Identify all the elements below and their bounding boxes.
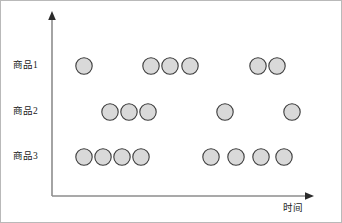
data-point xyxy=(228,149,244,165)
category-label-3: 商品3 xyxy=(13,152,38,162)
data-point xyxy=(76,58,92,74)
x-axis-arrow-icon xyxy=(305,192,314,200)
data-point xyxy=(162,58,178,74)
x-axis-title: 时间 xyxy=(283,204,303,214)
data-points-group xyxy=(76,58,300,165)
data-point xyxy=(250,58,266,74)
data-point xyxy=(95,149,111,165)
data-point xyxy=(133,149,149,165)
data-point xyxy=(276,149,292,165)
data-point xyxy=(143,58,159,74)
data-point xyxy=(182,58,198,74)
chart-figure: 商品1 商品2 商品3 时间 xyxy=(0,0,342,223)
data-point xyxy=(284,104,300,120)
data-point xyxy=(217,104,233,120)
scatter-plot-canvas xyxy=(1,1,342,223)
data-point xyxy=(203,149,219,165)
data-point xyxy=(102,104,118,120)
data-point xyxy=(140,104,156,120)
category-label-2: 商品2 xyxy=(13,107,38,117)
category-label-1: 商品1 xyxy=(13,61,38,71)
data-point xyxy=(253,149,269,165)
data-point xyxy=(114,149,130,165)
data-point xyxy=(269,58,285,74)
y-axis-arrow-icon xyxy=(48,11,56,20)
data-point xyxy=(121,104,137,120)
data-point xyxy=(76,149,92,165)
axes-group xyxy=(48,11,314,200)
